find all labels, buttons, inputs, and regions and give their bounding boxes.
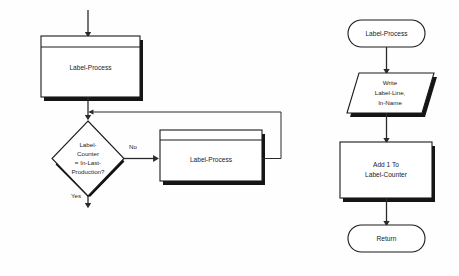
left-decision-line-2: Counter <box>77 150 99 157</box>
left-predefined-process-2[interactable]: Label-Process <box>160 130 265 185</box>
left-decision-line-4: Production? <box>71 168 105 175</box>
right-io-line-1: Write <box>383 79 398 86</box>
right-terminator-start[interactable]: Label-Process <box>348 20 425 47</box>
right-process-box[interactable]: Add 1 To Label-Counter <box>340 142 435 202</box>
right-input-output[interactable]: Write Label-Line, In-Name <box>347 73 437 117</box>
right-io-line-2: Label-Line, <box>375 89 406 96</box>
edge-label-yes: Yes <box>71 192 81 199</box>
right-terminator-end[interactable]: Return <box>348 225 425 252</box>
feedback-arrowhead <box>88 109 93 114</box>
right-terminator-start-label: Label-Process <box>365 30 408 37</box>
right-process-line-1: Add 1 To <box>373 161 399 168</box>
right-io-line-3: In-Name <box>378 99 402 106</box>
left-predefined-process-2-label: Label-Process <box>190 156 233 163</box>
edge-label-no: No <box>129 143 137 150</box>
left-decision-diamond[interactable]: Label- Counter = In-Last- Production? <box>52 121 124 196</box>
edge-no-branch: No <box>124 143 156 159</box>
right-process-line-2: Label-Counter <box>365 171 408 178</box>
left-predefined-process-1[interactable]: Label-Process <box>41 36 143 101</box>
left-predefined-process-1-label: Label-Process <box>69 64 112 71</box>
flowchart-canvas: Label-Process Label- Counter = In-Last- … <box>0 0 459 276</box>
right-terminator-end-label: Return <box>377 235 397 242</box>
left-decision-line-1: Label- <box>79 141 96 148</box>
flowchart-svg: Label-Process Label- Counter = In-Last- … <box>0 0 459 276</box>
left-decision-line-3: = In-Last- <box>75 159 101 166</box>
